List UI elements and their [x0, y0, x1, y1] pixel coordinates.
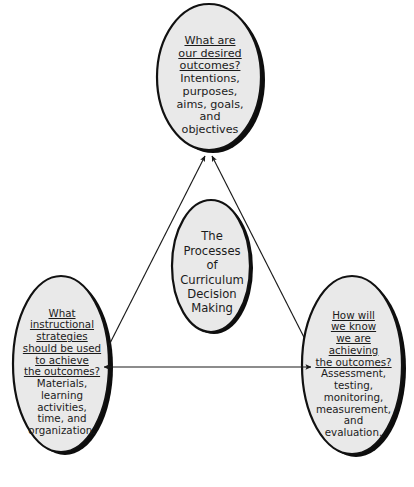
diagram-canvas	[0, 0, 414, 487]
node-right-shape	[302, 276, 402, 454]
curriculum-decision-making-diagram: What are our desired outcomes?Intentions…	[0, 0, 414, 487]
node-top-shape	[157, 4, 261, 150]
node-center-shape	[172, 200, 250, 332]
ellipse-faces	[13, 4, 402, 454]
node-left-shape	[13, 276, 109, 452]
